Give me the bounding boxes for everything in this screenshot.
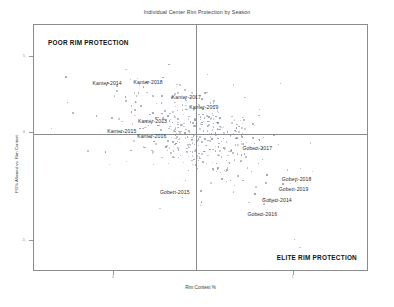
point-label: Kanter-2017	[172, 94, 201, 100]
scatter-point	[204, 92, 206, 94]
scatter-point	[237, 153, 239, 155]
scatter-point	[174, 102, 176, 104]
scatter-point	[209, 140, 211, 142]
scatter-point	[186, 109, 188, 111]
scatter-point	[157, 125, 159, 127]
point-label: Kanter-2014	[93, 80, 122, 86]
scatter-point	[254, 125, 256, 127]
scatter-point	[217, 129, 219, 131]
scatter-point	[177, 127, 179, 129]
scatter-point	[167, 150, 169, 152]
scatter-point	[245, 156, 247, 158]
scatter-point	[191, 139, 193, 141]
scatter-point	[204, 138, 206, 140]
scatter-point	[300, 168, 302, 170]
scatter-point	[197, 155, 199, 157]
scatter-point	[215, 150, 217, 152]
scatter-point	[259, 139, 261, 141]
scatter-point	[233, 84, 235, 86]
scatter-point	[142, 128, 144, 130]
scatter-point	[266, 174, 268, 176]
point-label: Kanter-2018	[134, 79, 163, 85]
scatter-point	[211, 138, 213, 140]
scatter-point	[186, 148, 188, 150]
scatter-point	[188, 116, 190, 118]
scatter-point	[213, 123, 215, 125]
scatter-point	[156, 103, 158, 105]
scatter-points-layer	[34, 25, 367, 270]
scatter-point	[200, 205, 202, 207]
scatter-point	[173, 130, 175, 132]
scatter-point	[240, 120, 242, 122]
point-label: Gobert-2019	[279, 186, 309, 192]
scatter-point	[198, 145, 200, 147]
scatter-point	[215, 116, 217, 118]
scatter-point	[167, 140, 169, 142]
scatter-point	[193, 125, 195, 127]
scatter-point	[262, 138, 264, 140]
scatter-point	[182, 197, 184, 199]
scatter-point	[219, 150, 221, 152]
scatter-point	[221, 178, 223, 180]
scatter-point	[273, 135, 275, 137]
scatter-point	[226, 169, 228, 171]
scatter-point	[180, 124, 182, 126]
scatter-point	[217, 123, 219, 125]
scatter-point	[221, 156, 223, 158]
scatter-point	[175, 127, 177, 129]
point-label: Gobert-2018	[282, 176, 312, 182]
scatter-point	[188, 170, 190, 172]
y-tick-mark	[29, 240, 33, 241]
scatter-point	[213, 100, 215, 102]
scatter-point	[252, 137, 254, 139]
scatter-point	[202, 114, 204, 116]
scatter-point	[167, 115, 169, 117]
scatter-point	[206, 92, 208, 94]
scatter-point	[223, 147, 225, 149]
scatter-point	[185, 137, 187, 139]
scatter-point	[183, 123, 185, 125]
scatter-point	[175, 106, 177, 108]
scatter-point	[187, 136, 189, 138]
scatter-point	[191, 160, 193, 162]
scatter-point	[231, 122, 233, 124]
scatter-point	[134, 92, 136, 94]
scatter-point	[143, 86, 145, 88]
scatter-point	[226, 160, 228, 162]
scatter-point	[234, 119, 236, 121]
scatter-point	[199, 158, 201, 160]
scatter-point	[172, 156, 174, 158]
scatter-point	[111, 117, 113, 119]
scatter-point	[216, 163, 218, 165]
scatter-point	[230, 180, 232, 182]
scatter-point	[109, 164, 111, 166]
scatter-point	[212, 168, 214, 170]
scatter-point	[310, 142, 312, 144]
scatter-point	[218, 143, 220, 145]
scatter-point	[207, 121, 209, 123]
scatter-point	[185, 109, 187, 111]
scatter-point	[172, 111, 174, 113]
scatter-point	[230, 136, 232, 138]
scatter-point	[116, 90, 118, 92]
scatter-point	[144, 127, 146, 129]
scatter-point	[172, 122, 174, 124]
scatter-point	[169, 113, 171, 115]
scatter-point	[192, 151, 194, 153]
scatter-point	[207, 74, 209, 76]
scatter-point	[208, 124, 210, 126]
scatter-point	[161, 157, 163, 159]
scatter-point	[227, 131, 229, 133]
scatter-point	[224, 148, 226, 150]
scatter-point	[211, 117, 213, 119]
scatter-point	[254, 193, 256, 195]
scatter-point	[171, 137, 173, 139]
scatter-point	[210, 118, 212, 120]
scatter-point	[258, 163, 260, 165]
scatter-point	[280, 83, 282, 85]
scatter-point	[213, 118, 215, 120]
scatter-point	[247, 167, 249, 169]
scatter-point	[206, 163, 208, 165]
scatter-point	[164, 110, 166, 112]
scatter-point	[135, 102, 137, 104]
